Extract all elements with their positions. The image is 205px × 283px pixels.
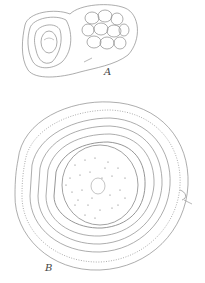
illustration — [0, 0, 205, 283]
panel-b-label: B — [45, 262, 52, 273]
panel-b-drawing — [15, 102, 192, 270]
panel-a-drawing — [22, 5, 137, 77]
panel-a-label: A — [104, 66, 111, 77]
core-dots — [65, 157, 125, 218]
